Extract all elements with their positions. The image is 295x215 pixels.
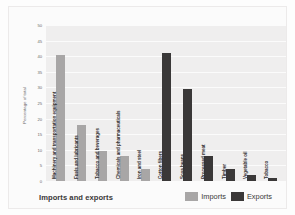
legend-label: Exports: [247, 192, 272, 201]
y-axis-tick: 0: [40, 179, 42, 184]
bar[interactable]: [247, 175, 256, 181]
bar-category-label: Vegetable oil: [243, 152, 248, 179]
bar-category-label: Cotton fibers: [158, 151, 163, 179]
bar-slot: Vegetable oil: [241, 25, 262, 181]
plot-area: Machinery and transportation equipmentFu…: [46, 25, 286, 181]
y-axis-tick: 50: [38, 23, 42, 28]
bar-slot: Timber: [220, 25, 241, 181]
y-axis-tick: 40: [38, 54, 42, 59]
y-axis-tick: 25: [38, 101, 42, 106]
gridline: [46, 181, 286, 182]
bar-category-label: Processed meat: [201, 144, 206, 179]
legend-label: Imports: [201, 192, 226, 201]
bar-slot: Fuels and lubricants: [71, 25, 92, 181]
y-axis-tick: 20: [38, 116, 42, 121]
y-axis-tick: 15: [38, 132, 42, 137]
chart-page: Percentage of total 50454035302520151050…: [0, 0, 295, 215]
y-axis-label: Percentage of total: [22, 68, 27, 144]
y-axis-tick: 30: [38, 85, 42, 90]
bar-slot: Chemicals and pharmaceuticals: [114, 25, 135, 181]
bar-category-label: Soya beans: [180, 154, 185, 179]
legend-swatch: [185, 192, 198, 201]
bar-category-label: Fuels and lubricants: [74, 135, 79, 179]
bar-slot: Cotton fibers: [156, 25, 177, 181]
bar-slot: Tobacco: [262, 25, 283, 181]
bar-category-label: Machinery and transportation equipment: [52, 92, 57, 179]
x-axis-label: Imports and exports: [39, 193, 113, 202]
bar-category-label: Tobacco: [264, 161, 269, 179]
bar-category-label: Chemicals and pharmaceuticals: [116, 110, 121, 179]
y-axis-tick: 5: [40, 163, 42, 168]
bar[interactable]: [120, 156, 129, 181]
chart-card: Percentage of total 50454035302520151050…: [8, 6, 287, 209]
y-axis-tick: 45: [38, 38, 42, 43]
bar-category-label: Tobacco and beverages: [95, 128, 100, 179]
legend-swatch: [231, 192, 244, 201]
y-axis-ticks: 50454035302520151050: [27, 25, 44, 181]
legend-item[interactable]: Imports: [185, 192, 226, 201]
bar-category-label: Iron and steel: [137, 150, 142, 179]
bar[interactable]: [56, 55, 65, 181]
bar-slot: Soya beans: [177, 25, 198, 181]
bar[interactable]: [162, 53, 171, 181]
bar-slot: Tobacco and beverages: [92, 25, 113, 181]
bar-category-label: Timber: [222, 164, 227, 179]
bar[interactable]: [141, 169, 150, 181]
bar-slot: Iron and steel: [135, 25, 156, 181]
legend-item[interactable]: Exports: [231, 192, 272, 201]
chart-legend: ImportsExports: [185, 192, 272, 201]
y-axis-tick: 10: [38, 147, 42, 152]
y-axis-tick: 35: [38, 69, 42, 74]
bar-series: Machinery and transportation equipmentFu…: [46, 25, 286, 181]
bar-slot: Processed meat: [198, 25, 219, 181]
bar-slot: Machinery and transportation equipment: [50, 25, 71, 181]
bar[interactable]: [268, 178, 277, 181]
